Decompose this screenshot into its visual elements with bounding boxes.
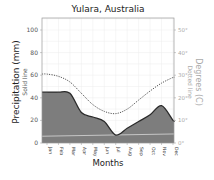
svg-text:30°: 30° — [178, 72, 188, 78]
svg-text:0°: 0° — [178, 140, 184, 146]
y2-axis-sublabel: Dotted line — [187, 65, 194, 99]
month-ticks: JanFebMarAprMayJunJulAugSepOctNovDec — [47, 143, 179, 157]
svg-text:0: 0 — [34, 139, 38, 146]
svg-text:100: 100 — [27, 26, 39, 33]
y2-axis-label: Degrees (C) — [194, 58, 203, 106]
svg-text:Sep: Sep — [139, 147, 144, 156]
svg-text:Oct: Oct — [151, 147, 156, 155]
svg-text:May: May — [93, 147, 98, 157]
svg-text:10°: 10° — [178, 117, 188, 123]
svg-text:50°: 50° — [178, 27, 188, 33]
svg-text:Nov: Nov — [162, 147, 167, 156]
left-axis-ticks: 020406080100 — [27, 26, 42, 146]
svg-text:Mar: Mar — [71, 147, 76, 156]
svg-text:40: 40 — [30, 94, 38, 101]
svg-text:80: 80 — [30, 49, 38, 56]
svg-text:Jan: Jan — [48, 146, 53, 154]
svg-text:Jun: Jun — [105, 146, 110, 154]
y-axis-sublabel: Solid line — [21, 68, 28, 96]
svg-text:Aug: Aug — [128, 147, 133, 156]
svg-text:40°: 40° — [178, 50, 188, 56]
svg-text:Jul: Jul — [116, 146, 121, 153]
svg-text:60: 60 — [30, 71, 38, 78]
y-axis-label: Precipitation (mm) — [11, 40, 21, 124]
x-axis-label: Months — [92, 158, 124, 168]
svg-text:20°: 20° — [178, 95, 188, 101]
svg-text:Feb: Feb — [59, 147, 64, 155]
chart-title: Yulara, Australia — [71, 4, 145, 14]
svg-text:Apr: Apr — [82, 147, 87, 155]
svg-text:Dec: Dec — [174, 147, 179, 156]
climate-chart: Yulara, Australia 020406080100 0°10°20°3… — [0, 0, 214, 180]
right-axis-ticks: 0°10°20°30°40°50° — [174, 27, 188, 146]
svg-text:20: 20 — [30, 116, 38, 123]
